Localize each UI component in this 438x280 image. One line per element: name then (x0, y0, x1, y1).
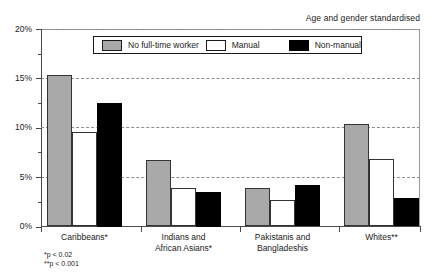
legend-swatch-icon (206, 40, 226, 51)
legend-label: No full-time worker (128, 40, 199, 50)
x-label-line: Pakistanis and (228, 232, 338, 243)
bar (295, 185, 320, 226)
x-label-line: Bangladeshis (228, 243, 338, 254)
x-group-label-3: Pakistanis andBangladeshis (228, 232, 338, 253)
bar (344, 124, 369, 227)
bar (270, 200, 295, 227)
legend-label: Manual (232, 40, 260, 50)
x-label-line: Caribbeans* (30, 232, 140, 243)
bar (97, 103, 122, 226)
bar (245, 188, 270, 227)
legend-item-grey: No full-time worker (102, 40, 199, 51)
footnotes: *p < 0.02 **p < 0.001 (44, 251, 79, 268)
bar (47, 75, 72, 226)
bar (369, 159, 394, 226)
legend-swatch-icon (289, 40, 309, 51)
x-label-line: African Asians* (129, 243, 239, 254)
legend-item-black: Non-manual (289, 40, 361, 51)
legend-item-white: Manual (206, 40, 260, 51)
bar (72, 132, 97, 227)
x-group-label-1: Caribbeans* (30, 232, 140, 243)
x-label-line: Indians and (129, 232, 239, 243)
bar (146, 160, 171, 226)
x-group-label-4: Whites** (327, 232, 437, 243)
footnote-1: *p < 0.02 (44, 251, 79, 260)
bar-chart-figure: Age and gender standardised 0%5%10%15%20… (0, 0, 438, 280)
bar (196, 192, 221, 227)
legend-swatch-icon (102, 40, 122, 51)
bar (171, 188, 196, 227)
legend: No full-time workerManualNon-manual (93, 36, 362, 54)
legend-label: Non-manual (315, 40, 361, 50)
footnote-2: **p < 0.001 (44, 260, 79, 269)
bar (394, 198, 419, 227)
x-label-line: Whites** (327, 232, 437, 243)
x-group-label-2: Indians andAfrican Asians* (129, 232, 239, 253)
